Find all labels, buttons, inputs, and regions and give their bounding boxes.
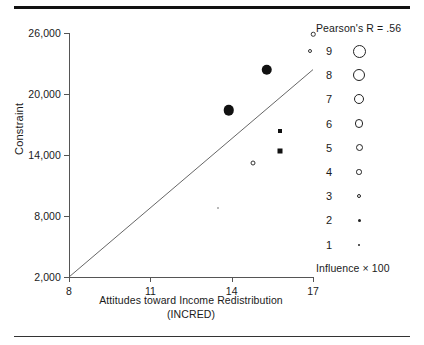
regression-line-overlay (69, 33, 313, 277)
legend-row: 7 (326, 88, 396, 110)
y-tick-label: 14,000 (28, 149, 61, 161)
legend-circle-icon (356, 144, 363, 151)
plot-area: 26,00020,00014,0008,0002,000 8111417 (69, 33, 313, 277)
x-tick (150, 277, 151, 282)
y-tick-label: 2,000 (34, 271, 61, 283)
data-point-marker (278, 148, 283, 153)
legend-row: 5 (326, 137, 396, 159)
data-point-marker (251, 161, 256, 166)
top-horizontal-rule (14, 6, 410, 9)
legend-size-label: 8 (326, 69, 346, 81)
x-tick (232, 277, 233, 282)
y-axis-label: Constraint (13, 103, 25, 155)
x-axis-label-line2: (INCRED) (69, 307, 313, 321)
x-tick (69, 277, 70, 282)
legend-circle-icon (358, 219, 361, 222)
legend-size-label: 2 (326, 214, 346, 226)
data-point-marker (278, 129, 282, 133)
legend-swatch (346, 219, 372, 222)
regression-line (69, 70, 313, 277)
legend-size-label: 3 (326, 190, 346, 202)
y-tick-label: 20,000 (28, 88, 61, 100)
y-tick-label: 26,000 (28, 27, 61, 39)
legend-size-label: 5 (326, 142, 346, 154)
data-point-marker (217, 207, 219, 209)
legend-row: 2 (326, 209, 396, 231)
size-legend: 987654321 (326, 40, 422, 272)
legend-size-label: 9 (326, 45, 346, 57)
legend-circle-icon (353, 45, 366, 58)
legend-size-label: 1 (326, 239, 346, 251)
legend-swatch (346, 69, 372, 81)
legend-size-label: 6 (326, 118, 346, 130)
legend-circle-icon (356, 169, 362, 175)
legend-swatch (346, 119, 372, 128)
legend-size-label: 4 (326, 166, 346, 178)
x-axis-label: Attitudes toward Income Redistribution (… (69, 293, 313, 321)
legend-swatch (346, 144, 372, 151)
y-tick-label: 8,000 (34, 210, 61, 222)
legend-row: 3 (326, 185, 396, 207)
legend-circle-icon (354, 94, 364, 104)
x-axis-label-line1: Attitudes toward Income Redistribution (99, 294, 283, 306)
legend-circle-icon (353, 69, 365, 81)
legend-swatch (346, 194, 372, 199)
x-axis-line (69, 277, 313, 278)
bottom-horizontal-rule (14, 336, 410, 337)
legend-swatch (346, 244, 372, 246)
legend-row: 8 (326, 64, 396, 86)
legend-row: 9 (326, 40, 396, 62)
legend-circle-icon (355, 119, 364, 128)
data-point-marker (224, 105, 235, 116)
legend-row: 6 (326, 113, 396, 135)
legend-swatch (346, 94, 372, 104)
pearson-r-annotation: Pearson's R = .56 (316, 22, 401, 34)
legend-swatch (346, 169, 372, 175)
legend-title: Influence × 100 (316, 262, 390, 274)
legend-swatch (346, 45, 372, 58)
legend-row: 1 (326, 234, 396, 256)
legend-circle-icon (357, 194, 362, 199)
figure-container: 26,00020,00014,0008,0002,000 8111417 Con… (0, 0, 424, 345)
legend-size-label: 7 (326, 93, 346, 105)
data-point-marker (262, 64, 273, 75)
x-tick (313, 277, 314, 282)
data-point-marker (308, 49, 312, 53)
data-point-marker (311, 32, 316, 37)
legend-circle-icon (358, 244, 360, 246)
legend-row: 4 (326, 161, 396, 183)
